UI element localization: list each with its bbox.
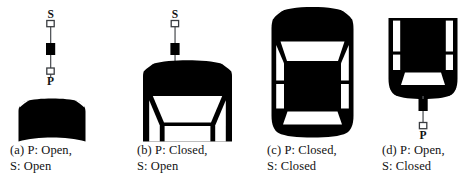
car-silhouette-c (272, 7, 354, 138)
panel-b-caption: (b) P: Closed, S: Open (125, 143, 267, 174)
panel-d-artwork: P (370, 0, 476, 142)
panel-d-caption-line2: S: Closed (382, 159, 476, 175)
car-rear-window-c (283, 112, 342, 125)
sensor-node-p (419, 123, 426, 129)
car-hood-b (165, 126, 211, 142)
panel-b: S (125, 0, 255, 185)
panel-d-caption: (d) P: Open, S: Closed (370, 143, 476, 174)
car-silhouette-a (19, 99, 86, 142)
antenna-block (170, 43, 179, 55)
panel-c-caption-line2: S: Closed (267, 159, 382, 175)
car-side-window-right-upper-d (446, 21, 453, 52)
panel-d: P (d) P: Open, S: Closed (370, 0, 476, 185)
car-rear-window-d (401, 73, 445, 86)
panel-a-artwork: S P (0, 0, 125, 142)
sensor-node-p (47, 68, 54, 74)
antenna-block (419, 99, 428, 111)
panel-c-artwork (255, 0, 370, 142)
car-side-window-rear-left-c (276, 84, 284, 109)
figure-container: S P (a) P: Open, S: Open (0, 0, 476, 185)
antenna-block (46, 43, 55, 55)
car-silhouette-d (389, 18, 458, 99)
car-silhouette-b (143, 60, 232, 141)
car-side-window-left-upper-d (393, 21, 400, 52)
antenna-label-p-a: P (47, 75, 54, 87)
antenna-label-s-b: S (172, 8, 178, 20)
antenna-assembly-a: S P (46, 8, 55, 87)
antenna-label-p-d: P (420, 129, 427, 141)
panel-a: S P (a) P: Open, S: Open (0, 0, 125, 185)
panel-b-artwork: S (125, 0, 255, 142)
car-windshield-c (281, 42, 345, 62)
panel-c-caption: (c) P: Closed, S: Closed (255, 143, 382, 174)
panel-d-caption-line1: (d) P: Open, (382, 143, 476, 159)
sensor-node-s (171, 21, 178, 27)
panel-b-caption-line1: (b) P: Closed, (137, 143, 267, 159)
sensor-node-s (47, 21, 54, 27)
panel-a-caption-line1: (a) P: Open, (10, 143, 135, 159)
car-windshield-b (153, 96, 222, 123)
antenna-assembly-d: P (419, 96, 428, 141)
panel-a-caption: (a) P: Open, S: Open (0, 143, 135, 174)
car-side-window-rear-right-c (341, 84, 349, 109)
antenna-label-s-a: S (47, 8, 53, 20)
panel-c-caption-line1: (c) P: Closed, (267, 143, 382, 159)
panel-a-caption-line2: S: Open (10, 159, 135, 175)
panel-b-caption-line2: S: Open (137, 159, 267, 175)
panel-c: (c) P: Closed, S: Closed (255, 0, 370, 185)
car-side-window-left-lower-d (393, 55, 400, 70)
car-side-window-right-lower-d (446, 55, 453, 70)
antenna-assembly-b: S (170, 8, 179, 66)
